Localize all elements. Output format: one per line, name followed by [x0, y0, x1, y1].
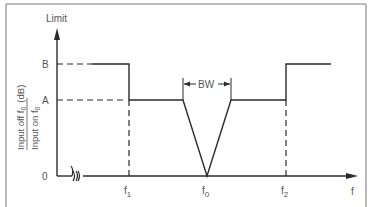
x-axis-label: f: [351, 186, 354, 197]
y-axis-arrow-icon: [54, 28, 60, 40]
svg-text:Input on f0: Input on f0: [29, 106, 41, 150]
x-tick-f2: f2: [281, 185, 289, 199]
diagram-frame: Limit f B A 0 BW f1 f0 f2 Input off f0(d…: [0, 0, 371, 207]
y-tick-A: A: [42, 95, 49, 106]
bandwidth-label: BW: [198, 79, 215, 90]
x-tick-f1: f1: [124, 185, 132, 199]
bw-right-arrow-icon: [224, 82, 230, 87]
x-axis-arrow-icon: [346, 173, 358, 179]
y-axis-label: Limit: [46, 13, 67, 24]
y-axis-ratio-label: Input off f0(dB) Input on f0: [15, 85, 41, 150]
y-tick-zero: 0: [42, 171, 48, 182]
svg-text:Input off f0(dB): Input off f0(dB): [15, 85, 27, 150]
x-tick-f0: f0: [202, 185, 210, 199]
guide-lines: [57, 64, 286, 176]
bw-left-arrow-icon: [184, 82, 190, 87]
y-axis: Limit: [46, 13, 67, 176]
y-tick-B: B: [42, 59, 49, 70]
